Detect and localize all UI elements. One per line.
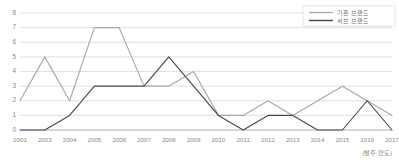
y-axis-tick-label: 1: [12, 111, 16, 118]
x-axis-tick-label: 2017: [385, 136, 399, 143]
y-axis-tick-label: 2: [12, 96, 16, 103]
x-axis-tick-label: 2015: [336, 136, 350, 143]
chart-legend: 기존 브랜드 서브 브랜드: [303, 6, 395, 26]
x-axis-tick-label: 2016: [360, 136, 374, 143]
chart-plot-area: 012345678 200120032004200520062007200820…: [0, 0, 399, 160]
grid-lines: [20, 13, 392, 130]
x-axis-tick-label: 2008: [162, 136, 176, 143]
x-axis-tick-label: 2006: [112, 136, 126, 143]
x-axis-tick-label: 2001: [13, 136, 27, 143]
y-axis-tick-label: 7: [12, 23, 16, 30]
y-axis-tick-label: 3: [12, 82, 16, 89]
x-axis-caption: (발주 연도): [362, 149, 392, 157]
x-axis-tick-label: 2013: [286, 136, 300, 143]
line-chart-container: 012345678 200120032004200520062007200820…: [0, 0, 399, 160]
x-axis-tick-label: 2012: [261, 136, 275, 143]
legend-label-sub-brand: 서브 브랜드: [337, 17, 369, 25]
y-axis-tick-labels: 012345678: [12, 9, 16, 133]
y-axis-tick-label: 6: [12, 38, 16, 45]
x-axis-tick-label: 2004: [63, 136, 77, 143]
x-axis-tick-label: 2014: [311, 136, 325, 143]
y-axis-tick-label: 8: [12, 9, 16, 16]
x-axis-tick-label: 2009: [187, 136, 201, 143]
x-axis-tick-labels: 2001200320042005200620072008200920102011…: [13, 136, 399, 143]
x-axis-tick-label: 2003: [38, 136, 52, 143]
y-axis-tick-label: 4: [12, 67, 16, 74]
x-axis-tick-label: 2011: [237, 136, 251, 143]
x-axis-tick-label: 2010: [212, 136, 226, 143]
x-axis-tick-label: 2005: [88, 136, 102, 143]
legend-label-existing-brand: 기존 브랜드: [337, 9, 369, 17]
y-axis-tick-label: 5: [12, 53, 16, 60]
x-axis-tick-label: 2007: [137, 136, 151, 143]
y-axis-tick-label: 0: [12, 126, 16, 133]
